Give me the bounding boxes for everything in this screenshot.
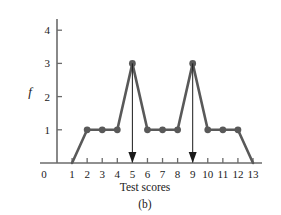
y-axis-tick-label: 2 — [45, 91, 51, 103]
data-point-marker — [99, 126, 106, 133]
figure-caption: (b) — [138, 198, 152, 211]
data-point-marker — [235, 126, 242, 133]
x-axis-tick-label: 4 — [115, 168, 121, 180]
data-point-marker — [84, 126, 91, 133]
data-point-marker — [114, 126, 121, 133]
data-point-marker — [204, 126, 211, 133]
x-axis-tick-label: 9 — [190, 168, 196, 180]
data-point-marker — [159, 126, 166, 133]
x-axis-tick-label: 13 — [248, 168, 260, 180]
x-axis-tick-label: 7 — [160, 168, 166, 180]
data-point-marker — [174, 126, 181, 133]
x-axis-tick-label: 5 — [130, 168, 136, 180]
x-axis-tick-label: 1 — [69, 168, 75, 180]
y-axis-origin-label: 0 — [41, 168, 47, 180]
chart-figure: 1234 12345678910111213 0 f Test scores (… — [0, 0, 281, 215]
y-axis-tick-label: 4 — [45, 24, 51, 36]
frequency-polygon-chart: 1234 12345678910111213 0 f Test scores (… — [0, 0, 281, 215]
x-axis-tick-label: 3 — [99, 168, 105, 180]
x-axis-tick-label: 2 — [84, 168, 90, 180]
y-axis-tick-label: 1 — [45, 124, 51, 136]
data-point-marker — [219, 126, 226, 133]
x-axis-tick-label: 12 — [232, 168, 243, 180]
data-point-marker — [144, 126, 151, 133]
x-axis-tick-label: 8 — [175, 168, 181, 180]
x-axis-title: Test scores — [120, 181, 171, 193]
x-axis-tick-label: 11 — [218, 168, 229, 180]
y-axis-tick-label: 3 — [45, 57, 51, 69]
x-axis-tick-label: 10 — [202, 168, 214, 180]
x-axis-tick-label: 6 — [145, 168, 151, 180]
